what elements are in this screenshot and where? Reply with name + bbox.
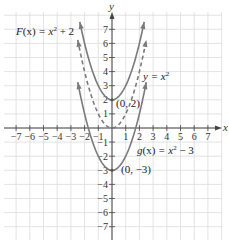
vertex-point — [110, 98, 113, 101]
annotation-y-eq: = x — [148, 70, 166, 82]
annotation-g: g(x) = x2 − 3 — [137, 144, 194, 157]
y-tick-label: 7 — [103, 24, 108, 35]
y-tick-label: 5 — [103, 52, 108, 63]
grid — [4, 12, 222, 240]
y-tick-label: −1 — [97, 137, 108, 148]
x-tick-label: 2 — [137, 131, 142, 142]
annotation-F-tail: + 2 — [57, 25, 74, 37]
x-tick-label: 5 — [178, 131, 183, 142]
x-tick-label: −3 — [66, 131, 77, 142]
y-tick-label: 3 — [103, 80, 108, 91]
y-tick-label: −4 — [97, 179, 108, 190]
annotation-y: y = x2 — [142, 70, 170, 82]
y-tick-label: 6 — [103, 38, 108, 49]
axes — [4, 12, 222, 240]
annotation-g-arg: (x) — [143, 144, 156, 157]
y-tick-label: 4 — [103, 66, 108, 77]
y-tick-label: −6 — [97, 207, 108, 218]
x-tick-label: −4 — [52, 131, 63, 142]
annotation-y-sup: 2 — [166, 70, 170, 78]
x-axis-label: x — [222, 121, 228, 133]
x-tick-label: −2 — [79, 131, 90, 142]
annotation-F: F(x) = x2 + 2 — [15, 25, 74, 38]
annotation-vertex-g: (0, −3) — [121, 163, 151, 176]
x-tick-label: 7 — [205, 131, 210, 142]
y-tick-label: 1 — [103, 108, 108, 119]
x-tick-label: −5 — [38, 131, 49, 142]
y-tick-label: −5 — [97, 193, 108, 204]
vertex-point — [110, 169, 113, 172]
x-axis-arrow-icon — [215, 126, 222, 131]
x-tick-label: 6 — [192, 131, 197, 142]
x-tick-label: 4 — [164, 131, 169, 142]
annotation-F-eq: = x — [36, 25, 54, 37]
annotation-g-eq: = x — [155, 144, 173, 156]
annotation-F-arg: (x) — [23, 25, 36, 38]
annotation-g-tail: − 3 — [177, 144, 195, 156]
x-tick-label: −7 — [11, 131, 22, 142]
x-tick-label: −6 — [24, 131, 35, 142]
y-axis-label: y — [108, 0, 114, 12]
x-tick-label: 3 — [151, 131, 156, 142]
y-tick-label: −7 — [97, 221, 108, 232]
chart: −7−6−5−4−3−2−11234567−7−6−5−4−3−2−112345… — [0, 0, 229, 244]
y-tick-label: −3 — [97, 165, 108, 176]
x-tick-label: 1 — [123, 131, 128, 142]
labels: x y F(x) = x2 + 2 y = x2 g(x) = x2 − 3 (… — [15, 0, 228, 176]
annotation-vertex-F: (0, 2) — [116, 97, 140, 110]
